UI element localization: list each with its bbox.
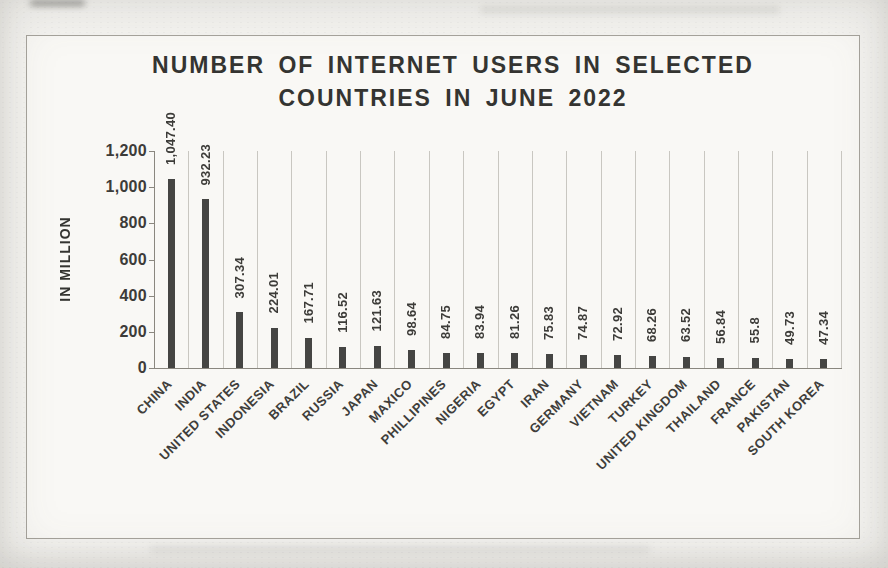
vertical-gridline [498,151,499,368]
bar-indonesia [271,328,278,369]
vertical-gridline [326,151,327,368]
scan-artifact [30,0,85,6]
vertical-gridline [223,151,224,368]
y-tick-mark [149,296,154,297]
y-axis-tick-labels: 02004006008001,0001,200 [27,36,147,538]
y-tick-mark [149,223,154,224]
vertical-gridline [704,151,705,368]
value-label: 75.83 [542,306,555,340]
y-tick-label: 600 [27,250,147,270]
value-label: 81.26 [508,305,521,339]
scanned-page: NUMBER OF INTERNET USERS IN SELECTED COU… [0,0,888,568]
bar-iran [546,354,553,368]
y-tick-label: 200 [27,322,147,342]
value-label: 47.34 [817,311,830,345]
vertical-gridline [841,151,842,368]
scan-artifact [150,545,650,554]
value-label: 98.64 [405,302,418,336]
vertical-gridline [738,151,739,368]
bar-egypt [511,353,518,368]
y-axis-line [154,151,155,369]
vertical-gridline [360,151,361,368]
bar-france [752,358,759,368]
bar-turkey [649,356,656,368]
value-label: 55.8 [748,317,761,344]
bar-united-kingdom [683,357,690,369]
y-tick-mark [149,151,154,152]
vertical-gridline [635,151,636,368]
plot-area: 1,047.40932.23307.34224.01167.71116.5212… [154,151,841,368]
y-tick-mark [149,260,154,261]
bar-chart-figure: NUMBER OF INTERNET USERS IN SELECTED COU… [26,35,860,539]
vertical-gridline [532,151,533,368]
bar-brazil [305,338,312,368]
bar-japan [374,346,381,368]
y-tick-mark [149,332,154,333]
value-label: 68.26 [645,308,658,342]
chart-title: NUMBER OF INTERNET USERS IN SELECTED COU… [57,49,849,115]
bar-vietnam [614,355,621,368]
vertical-gridline [601,151,602,368]
value-label: 167.71 [302,282,315,324]
y-tick-label: 1,000 [27,177,147,197]
value-label: 116.52 [336,292,349,333]
chart-title-line2: COUNTRIES IN JUNE 2022 [57,82,849,115]
value-label: 1,047.40 [164,112,177,165]
bar-pakistan [786,359,793,368]
vertical-gridline [429,151,430,368]
value-label: 932.23 [199,144,212,186]
value-label: 84.75 [439,305,452,339]
value-label: 72.92 [611,307,624,341]
bar-phillipines [443,353,450,368]
bar-india [202,199,209,368]
bar-nigeria [477,353,484,368]
bar-thailand [717,358,724,368]
vertical-gridline [394,151,395,368]
vertical-gridline [257,151,258,368]
vertical-gridline [188,151,189,368]
value-label: 63.52 [679,308,692,342]
bar-maxico [408,350,415,368]
vertical-gridline [291,151,292,368]
bar-united-states [236,312,243,368]
y-tick-label: 400 [27,286,147,306]
value-label: 224.01 [267,272,280,314]
value-label: 74.87 [576,306,589,340]
y-tick-mark [149,187,154,188]
y-tick-label: 800 [27,213,147,233]
y-tick-label: 0 [27,358,147,378]
bar-russia [339,347,346,368]
vertical-gridline [772,151,773,368]
vertical-gridline [807,151,808,368]
vertical-gridline [566,151,567,368]
vertical-gridline [463,151,464,368]
bar-south-korea [820,359,827,368]
vertical-gridline [669,151,670,368]
value-label: 49.73 [783,311,796,345]
value-label: 83.94 [473,305,486,339]
x-axis-category-labels: CHINAINDIAUNITED STATESINDONESIABRAZILRU… [154,368,841,533]
y-tick-label: 1,200 [27,141,147,161]
value-label: 56.84 [714,310,727,344]
value-label: 121.63 [370,290,383,332]
bar-china [168,179,175,368]
bar-germany [580,355,587,369]
scan-artifact [480,6,780,14]
value-label: 307.34 [233,257,246,299]
y-tick-mark [149,368,154,369]
chart-title-line1: NUMBER OF INTERNET USERS IN SELECTED [57,49,849,82]
